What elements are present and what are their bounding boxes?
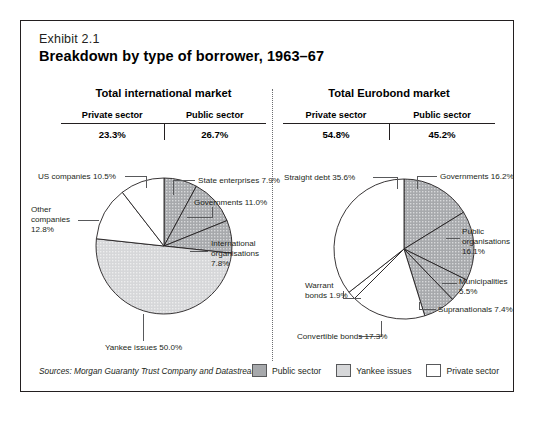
leader-line <box>419 309 436 310</box>
panel-title-eurobond: Total Eurobond market <box>283 87 495 99</box>
leader-line <box>190 251 208 252</box>
source-note: Sources: Morgan Guaranty Trust Company a… <box>39 366 261 376</box>
leader-line <box>419 302 420 310</box>
legend-swatch-private <box>426 364 441 377</box>
panel-title-international: Total international market <box>61 87 266 99</box>
exhibit-number: Exhibit 2.1 <box>39 32 100 46</box>
public-sector-label: Public sector <box>389 110 495 120</box>
label-public-organisations-3: 16.1% <box>462 247 485 257</box>
exhibit-footer: Sources: Morgan Guaranty Trust Company a… <box>39 364 499 380</box>
leader-line <box>187 217 213 218</box>
legend-item-public: Public sector <box>252 364 321 377</box>
public-sector-value: 45.2% <box>389 124 495 140</box>
leader-line <box>125 176 147 177</box>
leader-line <box>212 207 213 218</box>
label-other-companies-3: 12.8% <box>31 225 54 235</box>
leader-line <box>446 238 460 239</box>
label-governments-intl: Governments 11.0% <box>194 198 267 208</box>
label-municipalities-1: Municipalities <box>459 277 508 287</box>
label-warrant-bonds-2: bonds 1.9% <box>305 291 348 301</box>
panel-divider <box>272 89 273 361</box>
private-sector-value: 54.8% <box>283 124 389 140</box>
label-straight-debt: Straight debt 35.6% <box>284 173 355 183</box>
legend-label-yankee: Yankee issues <box>356 366 411 376</box>
panel-eurobond: Total Eurobond market Private sector Pub… <box>283 87 495 140</box>
sector-header-eurobond: Private sector Public sector <box>283 110 495 120</box>
label-governments-euro: Governments 16.2% <box>440 172 514 182</box>
leader-line <box>173 180 195 181</box>
leader-line <box>173 180 174 195</box>
label-us-companies: US companies 10.5% <box>38 172 116 182</box>
leader-line <box>78 220 99 221</box>
label-international-organisations-2: organisations <box>211 249 259 259</box>
leader-line <box>442 283 457 284</box>
leader-line <box>417 176 418 189</box>
label-public-organisations-1: Public <box>462 227 484 237</box>
exhibit-card: Exhibit 2.1 Breakdown by type of borrowe… <box>20 20 514 392</box>
label-international-organisations-1: International <box>211 239 256 249</box>
public-sector-label: Public sector <box>164 110 267 120</box>
sector-values-international: 23.3% 26.7% <box>61 124 266 140</box>
legend-swatch-public <box>252 364 267 377</box>
private-sector-label: Private sector <box>61 110 164 120</box>
label-warrant-bonds-1: Warrant <box>305 281 333 291</box>
sector-header-international: Private sector Public sector <box>61 110 266 120</box>
private-sector-value: 23.3% <box>61 124 164 140</box>
leader-line <box>417 176 437 177</box>
leader-line <box>146 176 147 188</box>
label-public-organisations-2: organisations <box>462 237 510 247</box>
label-other-companies-2: companies <box>31 215 70 225</box>
sector-values-eurobond: 54.8% 45.2% <box>283 124 495 140</box>
legend-label-public: Public sector <box>272 366 321 376</box>
legend-label-private: Private sector <box>446 366 499 376</box>
label-municipalities-2: 5.5% <box>459 287 477 297</box>
label-other-companies-1: Other <box>31 205 51 215</box>
panel-international: Total international market Private secto… <box>61 87 266 140</box>
label-convertible-bonds: Convertible bonds 17.3% <box>297 332 387 342</box>
leader-line <box>143 314 144 341</box>
label-supranationals: Supranationals 7.4% <box>438 305 513 315</box>
label-international-organisations-3: 7.8% <box>211 259 229 269</box>
leader-line <box>397 177 398 189</box>
vertical-rule <box>389 124 390 140</box>
exhibit-title: Breakdown by type of borrower, 1963–67 <box>39 48 324 64</box>
vertical-rule <box>164 124 165 140</box>
private-sector-label: Private sector <box>283 110 389 120</box>
legend-swatch-yankee <box>336 364 351 377</box>
leader-line <box>373 177 398 178</box>
label-state-enterprises: State enterprises 7.9% <box>198 176 280 186</box>
legend-item-yankee: Yankee issues <box>336 364 411 377</box>
label-yankee-issues: Yankee issues 50.0% <box>105 343 182 353</box>
legend-item-private: Private sector <box>426 364 499 377</box>
public-sector-value: 26.7% <box>164 124 267 140</box>
chart-legend: Public sectorYankee issuesPrivate sector <box>243 364 499 377</box>
